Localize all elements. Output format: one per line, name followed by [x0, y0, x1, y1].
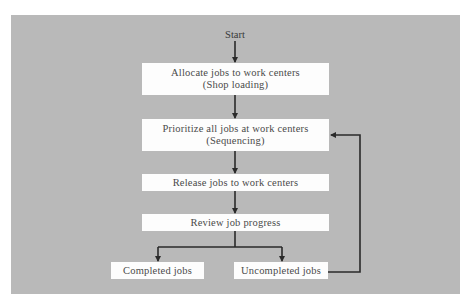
node-review-line1: Review job progress [190, 217, 280, 229]
node-prioritize-line1: Prioritize all jobs at work centers [162, 123, 308, 135]
node-release: Release jobs to work centers [142, 174, 329, 191]
node-uncompleted-line1: Uncompleted jobs [241, 265, 321, 277]
node-allocate: Allocate jobs to work centers (Shop load… [142, 63, 329, 95]
start-label: Start [215, 29, 255, 40]
arrow-loop-uncompleted-to-prioritize [328, 135, 360, 272]
node-prioritize: Prioritize all jobs at work centers (Seq… [142, 119, 329, 151]
connector-lines [0, 0, 474, 307]
node-allocate-line2: (Shop loading) [203, 79, 269, 91]
node-release-line1: Release jobs to work centers [173, 177, 299, 189]
node-uncompleted: Uncompleted jobs [234, 262, 328, 279]
node-completed-line1: Completed jobs [123, 265, 192, 277]
node-allocate-line1: Allocate jobs to work centers [171, 67, 300, 79]
node-review: Review job progress [142, 214, 329, 231]
node-prioritize-line2: (Sequencing) [206, 135, 264, 147]
node-completed: Completed jobs [111, 262, 204, 279]
